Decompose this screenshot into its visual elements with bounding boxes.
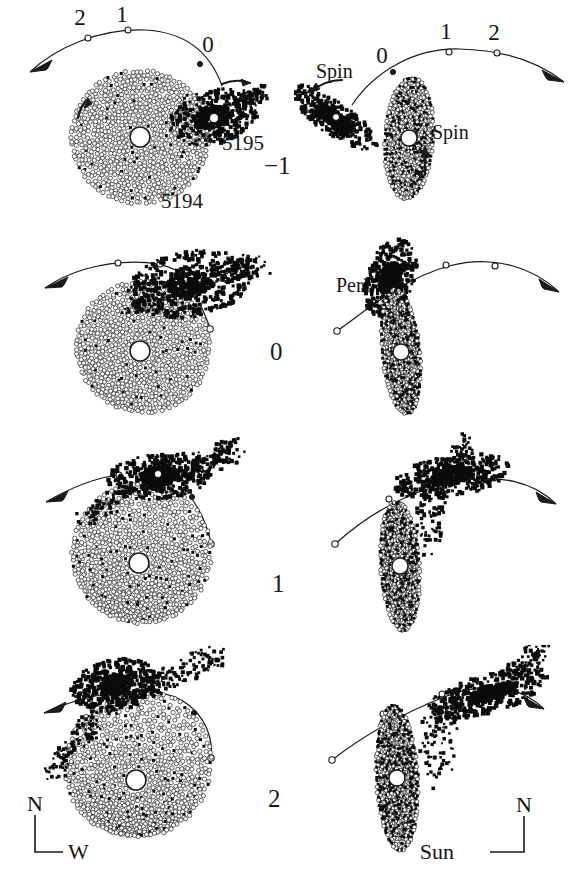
figure-canvas: 2 1 0 5195 5194 0 1 2 [0,0,588,887]
panel-row3-left-sky-view [0,430,294,645]
row-time-label-minus-one: −1 [264,152,291,180]
disk-ngc5194-row4 [64,688,214,839]
galaxy-label-5194: 5194 [161,189,204,213]
row-time-label-two: 2 [268,785,281,813]
orbit-tick-label-0: 0 [202,32,214,57]
orbit-tick-label-2: 2 [74,5,86,30]
compass-label-north: N [516,792,532,817]
panel-row3-right-edge-on-view [294,430,588,645]
orbit-tick-label-1: 1 [440,19,452,44]
panel-row1-right-edge-on-view: 0 1 2 Spin Spin [294,0,588,230]
galaxy-label-5195: 5195 [222,131,264,155]
panel-row2-left-sky-view [0,230,294,440]
compass-label-west: W [68,839,89,864]
panel-row1-left-sky-view: 2 1 0 5195 5194 [0,0,294,230]
disk-ngc5194-row3-edge [379,501,422,633]
companion-ngc5195-row1-edge [294,84,379,151]
orbit-track-row2-right [334,262,559,335]
compass-rose-right: N Sun [420,792,532,864]
compass-label-sun: Sun [420,839,454,864]
panel-row2-right-edge-on-view: Peri [294,230,588,440]
disk-ngc5194-row4-edge [374,704,420,852]
panel-row4-right-edge-on-view: N Sun [294,645,588,887]
disk-ngc5194-row2-edge [379,288,423,415]
spin-label-primary: Spin [432,121,469,144]
panel-row4-left-sky-view: N W [0,645,294,887]
row-time-label-one: 1 [272,570,285,598]
row-time-label-zero: 0 [270,338,283,366]
disk-ngc5194-row1-edge [382,77,435,201]
orbit-tick-label-0: 0 [376,43,388,68]
spin-label-companion: Spin [316,60,353,83]
companion-ngc5195-row4-edge [416,645,550,790]
orbit-tick-label-1: 1 [116,2,128,27]
disk-ngc5194-row3 [70,482,213,625]
compass-label-north: N [27,791,43,816]
orbit-tick-label-2: 2 [488,20,500,45]
